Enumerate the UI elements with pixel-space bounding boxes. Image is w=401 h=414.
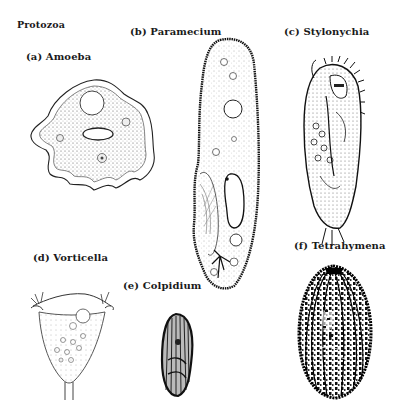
label-stylonychia: (c) Stylonychia [284,26,369,37]
label-vorticella: (d) Vorticella [33,252,108,263]
paramecium-illustration [188,34,270,294]
figure-title: Protozoa [17,19,65,30]
stylonychia-illustration [300,56,365,246]
tetrahymena-illustration [293,262,377,402]
colpidium-illustration [158,310,198,400]
label-amoeba: (a) Amoeba [26,51,91,62]
amoeba-illustration [20,74,170,204]
vorticella-illustration [25,284,120,404]
protozoa-figure: Protozoa (a) Amoeba (b) Paramecium (c) S… [0,0,401,414]
